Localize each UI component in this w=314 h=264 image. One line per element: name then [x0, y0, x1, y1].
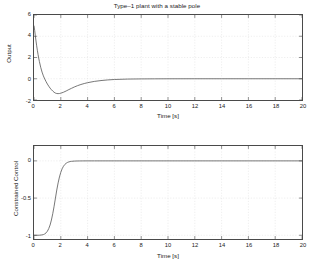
- y-axis-label-output: Output: [5, 29, 12, 79]
- y-tick--1: -1: [15, 233, 31, 239]
- constrained-control-panel: Constrained Control Time [s] 02468101214…: [0, 128, 314, 264]
- x-tick-10: 10: [160, 103, 176, 109]
- x-tick-4: 4: [79, 242, 95, 248]
- x-tick-14: 14: [214, 242, 230, 248]
- x-tick-6: 6: [106, 242, 122, 248]
- x-tick-18: 18: [268, 103, 284, 109]
- x-tick-4: 4: [79, 103, 95, 109]
- y-tick-4: 4: [15, 32, 31, 38]
- output-panel: Type–1 plant with a stable pole Output T…: [0, 0, 314, 128]
- y-tick--0.5: -0.5: [15, 195, 31, 201]
- y-tick-0: 0: [15, 157, 31, 163]
- x-tick-12: 12: [187, 103, 203, 109]
- x-tick-20: 20: [295, 103, 311, 109]
- x-tick-16: 16: [241, 242, 257, 248]
- y-tick--2: -2: [15, 98, 31, 104]
- x-tick-8: 8: [133, 103, 149, 109]
- x-tick-16: 16: [241, 103, 257, 109]
- y-axis-label-constrained-control: Constrained Control: [12, 141, 19, 237]
- x-tick-12: 12: [187, 242, 203, 248]
- constrained-control-curve-svg: [34, 146, 302, 239]
- x-tick-2: 2: [52, 103, 68, 109]
- x-tick-0: 0: [25, 242, 41, 248]
- y-tick-2: 2: [15, 54, 31, 60]
- x-tick-20: 20: [295, 242, 311, 248]
- plot-area-constrained-control: [33, 145, 303, 240]
- plot-area-output: [33, 14, 303, 101]
- output-curve-svg: [34, 15, 302, 100]
- x-tick-14: 14: [214, 103, 230, 109]
- figure-canvas: Type–1 plant with a stable pole Output T…: [0, 0, 314, 264]
- y-tick-0: 0: [15, 76, 31, 82]
- x-tick-10: 10: [160, 242, 176, 248]
- y-tick-6: 6: [15, 11, 31, 17]
- chart-title: Type–1 plant with a stable pole: [0, 2, 314, 9]
- x-tick-6: 6: [106, 103, 122, 109]
- x-axis-label-bottom: Time [s]: [33, 252, 303, 259]
- x-axis-label-top: Time [s]: [33, 112, 303, 119]
- x-tick-2: 2: [52, 242, 68, 248]
- x-tick-8: 8: [133, 242, 149, 248]
- x-tick-18: 18: [268, 242, 284, 248]
